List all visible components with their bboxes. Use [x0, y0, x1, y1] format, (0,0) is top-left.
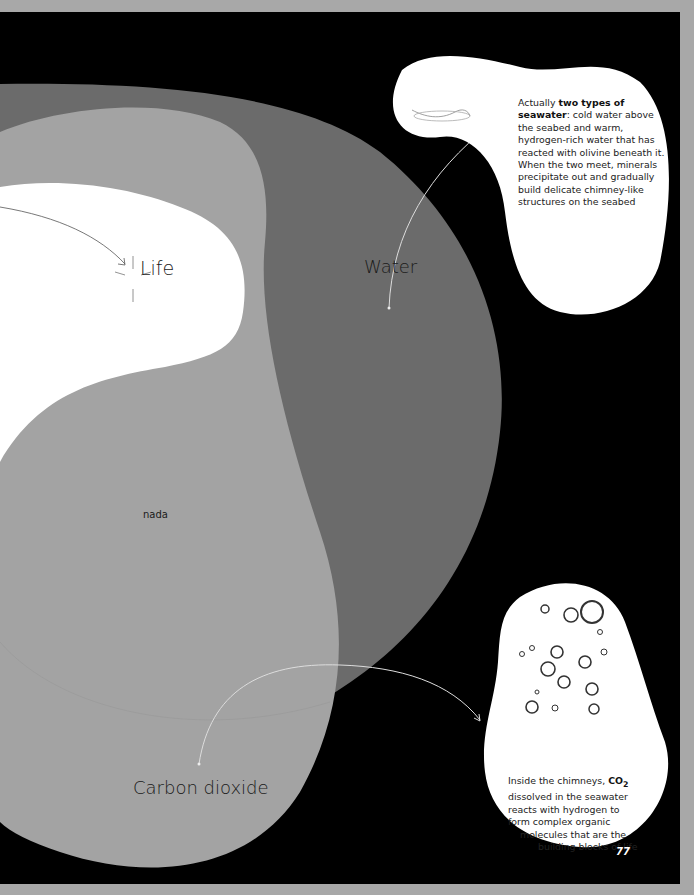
life-label: Life	[140, 257, 174, 279]
carbon-dioxide-callout-text: Inside the chimneys, CO2 dissolved in th…	[508, 775, 658, 853]
page: Life Water Carbon dioxide nada Actually …	[0, 12, 680, 884]
page-number: 77	[616, 846, 630, 857]
carbon-dioxide-label: Carbon dioxide	[133, 777, 269, 798]
water-label: Water	[364, 256, 417, 277]
overlap-note: nada	[143, 509, 168, 520]
water-callout-text: Actually two types of seawater: cold wat…	[518, 97, 668, 209]
